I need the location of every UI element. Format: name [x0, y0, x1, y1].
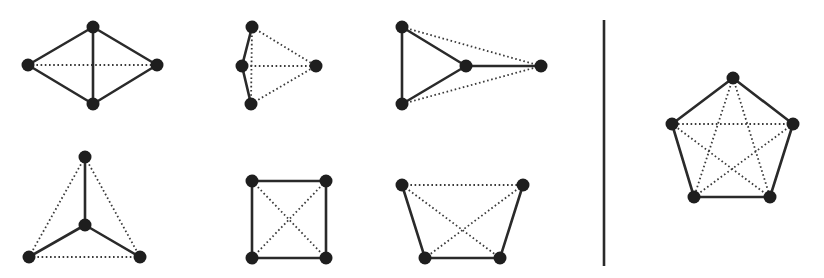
vertex	[245, 98, 258, 111]
dotted-edge	[694, 124, 793, 197]
vertex	[134, 251, 147, 264]
vertex	[727, 72, 740, 85]
vertex	[246, 21, 259, 34]
vertex	[688, 191, 701, 204]
dotted-edge	[402, 185, 500, 258]
vertex	[23, 251, 36, 264]
dotted-edge	[251, 66, 316, 104]
graphs-container	[22, 21, 800, 265]
vertex	[494, 252, 507, 265]
vertex	[666, 118, 679, 131]
solid-edge	[93, 27, 157, 65]
vertex	[22, 59, 35, 72]
graph-k4-fan	[236, 21, 323, 111]
dotted-edge	[672, 124, 770, 197]
vertex	[787, 118, 800, 131]
vertex	[517, 179, 530, 192]
graph-k4-square	[246, 175, 333, 265]
vertex	[246, 252, 259, 265]
solid-edge	[28, 65, 93, 104]
vertex	[87, 21, 100, 34]
vertex	[79, 219, 92, 232]
graph-k4-rhombus	[22, 21, 164, 111]
vertex	[310, 60, 323, 73]
vertex	[246, 175, 259, 188]
solid-edge	[85, 225, 140, 257]
dotted-edge	[402, 27, 541, 66]
vertex	[236, 60, 249, 73]
graph-k4-trapezoid	[396, 179, 530, 265]
dotted-edge	[733, 78, 770, 197]
graph-k5-pentagon	[666, 72, 800, 204]
solid-edge	[402, 185, 425, 258]
vertex	[87, 98, 100, 111]
graph-k4-star	[23, 151, 147, 264]
graph-k4-triangle-tail	[396, 21, 548, 111]
solid-edge	[29, 225, 85, 257]
dotted-edge	[402, 66, 541, 104]
vertex	[396, 21, 409, 34]
vertex	[396, 98, 409, 111]
vertex	[764, 191, 777, 204]
vertex	[320, 175, 333, 188]
solid-edge	[500, 185, 523, 258]
vertex	[535, 60, 548, 73]
solid-edge	[402, 27, 466, 66]
solid-edge	[93, 65, 157, 104]
graph-figure	[0, 0, 824, 278]
vertex	[460, 60, 473, 73]
dotted-edge	[252, 181, 326, 258]
dotted-edge	[425, 185, 523, 258]
solid-edge	[672, 78, 733, 124]
solid-edge	[28, 27, 93, 65]
dotted-edge	[694, 78, 733, 197]
solid-edge	[770, 124, 793, 197]
vertex	[79, 151, 92, 164]
dotted-edge	[252, 27, 316, 66]
vertex	[320, 252, 333, 265]
vertex	[151, 59, 164, 72]
dotted-edge	[252, 181, 326, 258]
vertex	[419, 252, 432, 265]
solid-edge	[402, 66, 466, 104]
vertex	[396, 179, 409, 192]
solid-edge	[672, 124, 694, 197]
solid-edge	[733, 78, 793, 124]
